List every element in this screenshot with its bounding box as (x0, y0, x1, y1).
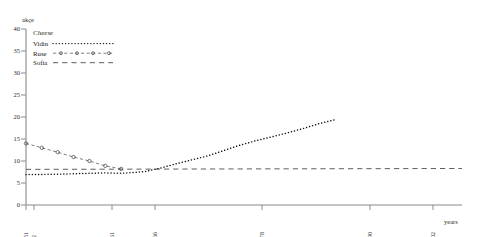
legend-item-vidin: Vidin (33, 40, 113, 47)
chart-canvas: 0 5 10 15 20 25 30 35 40 akçe 1751 (0, 0, 485, 237)
x-tick-label: 1766 (152, 232, 158, 237)
x-tick-label: 1778 (259, 232, 265, 237)
y-tick-label: 30 (14, 69, 21, 76)
y-tick-label: 40 (14, 25, 21, 32)
x-tick-label: 1751 (23, 232, 29, 237)
legend-title: Cheese (33, 29, 53, 37)
x-tick-label: 1790 (367, 232, 373, 237)
y-axis-ticks: 0 5 10 15 20 25 30 35 40 (14, 25, 27, 208)
x-tick-label: 1761 (109, 232, 115, 237)
series-line-sofia (26, 168, 462, 169)
legend-label-vidin: Vidin (33, 40, 49, 47)
x-axis-title: years (444, 218, 458, 225)
y-tick-label: 0 (17, 201, 20, 208)
legend-item-sofia: Sofia (33, 59, 113, 66)
legend-label-ruse: Ruse (33, 50, 47, 57)
legend-item-ruse: Ruse (33, 50, 113, 57)
y-tick-label: 10 (14, 157, 21, 164)
y-tick-label: 5 (17, 179, 20, 186)
cheese-price-chart: 0 5 10 15 20 25 30 35 40 akçe 1751 (0, 0, 485, 237)
legend-label-sofia: Sofia (33, 59, 47, 66)
x-tick-label: 1752 (31, 235, 37, 237)
y-tick-label: 15 (14, 135, 21, 142)
y-axis-title: akçe (22, 16, 34, 23)
x-axis-ticks: 1751 1752 1761 1766 1778 1790 1802 (23, 205, 436, 237)
legend: Cheese Vidin Ruse Sofia (33, 29, 113, 66)
y-tick-label: 25 (14, 91, 21, 98)
x-tick-label: 1802 (430, 232, 436, 237)
y-tick-label: 35 (14, 47, 21, 54)
axes-group (26, 29, 462, 205)
series-group (24, 120, 462, 175)
y-tick-label: 20 (14, 113, 21, 120)
series-line-vidin (26, 120, 335, 175)
